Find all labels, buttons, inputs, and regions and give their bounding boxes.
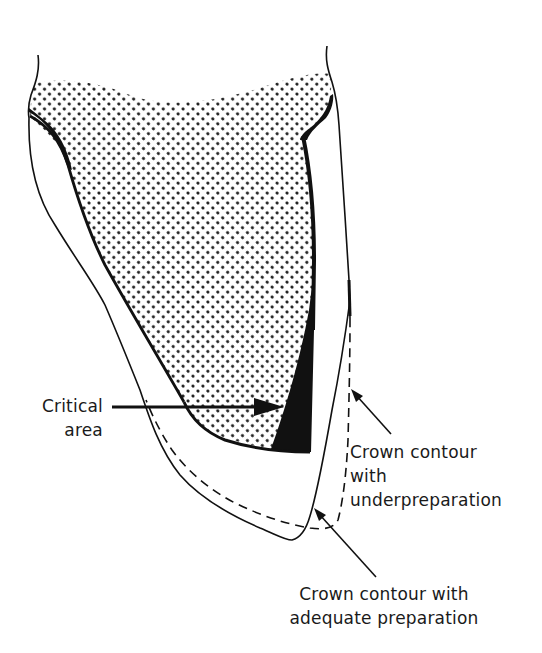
underpreparation-arrow [351, 389, 391, 434]
adequate-preparation-label-line2: adequate preparation [276, 606, 492, 630]
outer-right-thick-segment [349, 280, 350, 316]
underpreparation-label: Crown contour with underpreparation [350, 440, 502, 512]
adequate-preparation-label: Crown contour with adequate preparation [276, 582, 492, 630]
tooth-diagram [0, 0, 542, 653]
diagram-canvas: Critical area Crown contour with underpr… [0, 0, 542, 653]
underpreparation-label-line2: with [350, 464, 502, 488]
adequate-preparation-label-line1: Crown contour with [276, 582, 492, 606]
underpreparation-label-line1: Crown contour [350, 440, 502, 464]
adequate-preparation-arrow [314, 508, 376, 577]
critical-area-label-line2: area [35, 418, 103, 442]
critical-area-label-line1: Critical [35, 394, 103, 418]
critical-area-label: Critical area [35, 394, 103, 442]
underpreparation-label-line3: underpreparation [350, 488, 502, 512]
